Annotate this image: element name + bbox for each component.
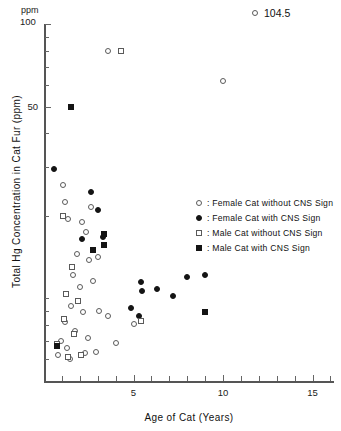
legend: : Female Cat without CNS Sign: Female Ca… bbox=[196, 195, 333, 255]
data-point bbox=[68, 303, 74, 309]
x-tick-minor bbox=[151, 376, 152, 381]
data-point bbox=[184, 274, 190, 280]
y-tick-minor bbox=[45, 341, 49, 342]
data-point bbox=[88, 189, 94, 195]
data-point bbox=[131, 321, 137, 327]
y-tick-minor bbox=[45, 298, 49, 299]
y-tick-major bbox=[45, 24, 51, 25]
data-point bbox=[71, 331, 77, 337]
legend-label: : Male Cat with CNS Sign bbox=[207, 243, 310, 253]
legend-item: : Male Cat with CNS Sign bbox=[196, 240, 333, 255]
data-point bbox=[88, 204, 94, 210]
data-point bbox=[70, 272, 76, 278]
data-point bbox=[80, 309, 86, 315]
x-tick-minor bbox=[187, 376, 188, 381]
data-point bbox=[61, 316, 67, 322]
data-point bbox=[95, 207, 101, 213]
data-point bbox=[101, 242, 107, 248]
open-circle-icon bbox=[252, 10, 258, 16]
x-tick-minor bbox=[259, 376, 260, 381]
data-point bbox=[105, 48, 111, 54]
data-point bbox=[54, 343, 60, 349]
data-point bbox=[64, 345, 70, 351]
y-tick-minor bbox=[45, 216, 49, 217]
data-point bbox=[113, 340, 119, 346]
data-point bbox=[65, 216, 71, 222]
data-point bbox=[85, 335, 91, 341]
x-tick-minor bbox=[98, 376, 99, 381]
x-tick-minor bbox=[62, 376, 63, 381]
legend-label: : Male Cat without CNS Sign bbox=[207, 228, 323, 238]
x-axis-line bbox=[44, 381, 334, 383]
data-point bbox=[202, 309, 208, 315]
x-tick-minor bbox=[277, 376, 278, 381]
data-point bbox=[202, 272, 208, 278]
x-tick-minor bbox=[241, 376, 242, 381]
legend-label: : Female Cat without CNS Sign bbox=[207, 198, 333, 208]
open-square-icon bbox=[196, 230, 202, 236]
y-tick-minor bbox=[45, 67, 49, 68]
y-axis-unit: ppm bbox=[21, 5, 39, 15]
outlier-value: 104.5 bbox=[264, 7, 290, 19]
data-point bbox=[101, 231, 107, 237]
data-point bbox=[170, 293, 176, 299]
data-point bbox=[139, 288, 145, 294]
data-point bbox=[105, 313, 111, 319]
y-axis-line bbox=[44, 24, 46, 381]
y-axis-top-label: 100 bbox=[20, 16, 36, 27]
data-point bbox=[78, 352, 84, 358]
data-point bbox=[55, 352, 61, 358]
legend-item: : Female Cat without CNS Sign bbox=[196, 195, 333, 210]
x-tick-label: 5 bbox=[119, 388, 149, 398]
x-tick-minor bbox=[116, 376, 117, 381]
data-point bbox=[83, 229, 89, 235]
data-point bbox=[93, 349, 99, 355]
x-tick-minor bbox=[80, 376, 81, 381]
scatter-plot: ppm 100 50 51015 Age of Cat (Years) Tota… bbox=[0, 0, 341, 431]
data-point bbox=[65, 354, 71, 360]
y-tick-minor bbox=[45, 359, 49, 360]
y-axis-title: Total Hg Concentration in Cat Fur (ppm) bbox=[11, 72, 22, 312]
data-point bbox=[138, 279, 144, 285]
x-tick-major bbox=[134, 375, 135, 381]
x-tick-minor bbox=[330, 376, 331, 381]
data-point bbox=[95, 254, 101, 260]
filled-square-icon bbox=[196, 245, 202, 251]
x-tick-label: 15 bbox=[298, 388, 328, 398]
data-point bbox=[86, 257, 92, 263]
data-point bbox=[220, 78, 226, 84]
y-tick-minor bbox=[45, 51, 49, 52]
legend-label: : Female Cat with CNS Sign bbox=[207, 213, 320, 223]
data-point bbox=[118, 48, 124, 54]
legend-item: : Male Cat without CNS Sign bbox=[196, 225, 333, 240]
x-tick-major bbox=[313, 375, 314, 381]
data-point bbox=[69, 264, 75, 270]
data-point bbox=[79, 219, 85, 225]
y-tick-major bbox=[45, 107, 51, 108]
data-point bbox=[79, 236, 85, 242]
data-point bbox=[154, 286, 160, 292]
y-tick-minor bbox=[45, 37, 49, 38]
data-point bbox=[74, 251, 80, 257]
data-point bbox=[62, 199, 68, 205]
x-tick-minor bbox=[295, 376, 296, 381]
x-tick-major bbox=[223, 375, 224, 381]
x-axis-title: Age of Cat (Years) bbox=[44, 412, 334, 423]
data-point bbox=[75, 298, 81, 304]
data-point bbox=[68, 104, 74, 110]
data-point bbox=[90, 247, 96, 253]
data-point bbox=[63, 291, 69, 297]
x-tick-label: 10 bbox=[208, 388, 238, 398]
data-point bbox=[96, 308, 102, 314]
y-tick-minor bbox=[45, 133, 49, 134]
data-point bbox=[60, 182, 66, 188]
x-tick-minor bbox=[205, 376, 206, 381]
open-circle-icon bbox=[196, 200, 202, 206]
legend-item: : Female Cat with CNS Sign bbox=[196, 210, 333, 225]
y-tick-minor bbox=[45, 85, 49, 86]
x-tick-minor bbox=[169, 376, 170, 381]
y-tick-minor bbox=[45, 325, 49, 326]
filled-circle-icon bbox=[196, 215, 202, 221]
y-tick-minor bbox=[45, 167, 49, 168]
data-point bbox=[128, 305, 134, 311]
